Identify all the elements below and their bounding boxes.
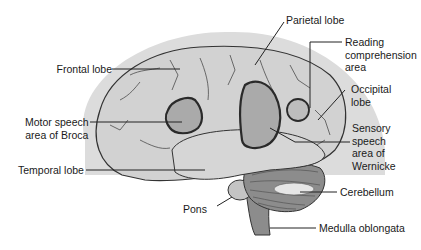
reading-area-label: Reading comprehension area	[345, 36, 417, 74]
reading-area-line-3: area	[345, 61, 417, 74]
cerebellum-core	[274, 183, 314, 195]
parietal-lobe-label: Parietal lobe	[286, 14, 344, 27]
wernicke-line-1: Sensory	[352, 122, 396, 135]
reading-area-line-2: comprehension	[345, 49, 417, 62]
wernicke-area-label: Sensory speech area of Wernicke	[352, 122, 396, 172]
broca-line-2: area of Broca	[25, 129, 89, 142]
occipital-lobe-label: Occipital lobe	[351, 83, 391, 108]
broca-area-shape	[166, 98, 202, 133]
wernicke-area-shape	[240, 82, 280, 148]
broca-area-label: Motor speech area of Broca	[25, 116, 89, 141]
reading-area-line-1: Reading	[345, 36, 417, 49]
cerebellum-label: Cerebellum	[340, 186, 394, 199]
broca-line-1: Motor speech	[25, 116, 89, 129]
temporal-lobe-label: Temporal lobe	[18, 164, 84, 177]
wernicke-line-3: area of	[352, 147, 396, 160]
occipital-line-1: Occipital	[351, 83, 391, 96]
pons-label: Pons	[183, 203, 207, 216]
occipital-line-2: lobe	[351, 96, 391, 109]
reading-comprehension-area-shape	[287, 99, 309, 121]
wernicke-line-2: speech	[352, 135, 396, 148]
medulla-oblongata-label: Medulla oblongata	[319, 222, 405, 235]
frontal-lobe-label: Frontal lobe	[28, 63, 112, 76]
wernicke-line-4: Wernicke	[352, 160, 396, 173]
